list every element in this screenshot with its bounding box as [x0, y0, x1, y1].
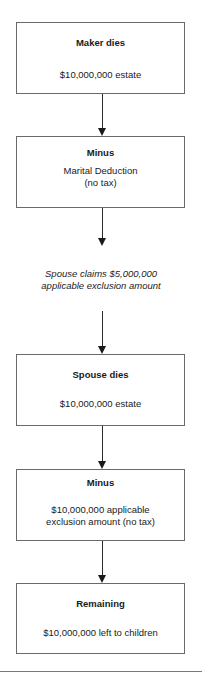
step-body: $10,000,000 estate [17, 398, 184, 410]
step-body: $10,000,000 estate [17, 69, 184, 81]
step-body-line: $10,000,000 left to children [17, 627, 184, 639]
arrow-down-icon [98, 128, 106, 136]
step-body-line: (no tax) [17, 177, 184, 189]
step-body-line: exclusion amount (no tax) [17, 516, 184, 528]
arrow-down-icon [98, 461, 106, 469]
connector-line [102, 426, 103, 461]
note-line: applicable exclusion amount [0, 280, 202, 292]
step-body-line: $10,000,000 estate [17, 398, 184, 410]
step-maker-dies: Maker dies $10,000,000 estate [16, 22, 185, 94]
note-line: Spouse claims $5,000,000 [0, 268, 202, 280]
bottom-divider [0, 671, 202, 672]
annotation-note: Spouse claims $5,000,000 applicable excl… [0, 268, 202, 292]
step-title: Spouse dies [17, 369, 184, 381]
step-marital-deduction: Minus Marital Deduction (no tax) [16, 136, 185, 208]
step-body-line: Marital Deduction [17, 165, 184, 177]
step-body: Marital Deduction (no tax) [17, 165, 184, 189]
step-spouse-dies: Spouse dies $10,000,000 estate [16, 354, 185, 426]
connector-line [102, 208, 103, 238]
step-body: $10,000,000 applicable exclusion amount … [17, 504, 184, 528]
step-applicable-exclusion: Minus $10,000,000 applicable exclusion a… [16, 469, 185, 541]
connector-line [102, 311, 103, 346]
step-title: Maker dies [17, 37, 184, 49]
arrow-down-icon [98, 238, 106, 246]
step-title: Minus [17, 477, 184, 489]
arrow-down-icon [98, 575, 106, 583]
step-body: $10,000,000 left to children [17, 627, 184, 639]
step-body-line: $10,000,000 estate [17, 69, 184, 81]
step-title: Minus [17, 147, 184, 159]
step-title: Remaining [17, 598, 184, 610]
connector-line [102, 94, 103, 128]
connector-line [102, 541, 103, 575]
step-body-line: $10,000,000 applicable [17, 504, 184, 516]
step-remaining: Remaining $10,000,000 left to children [16, 583, 185, 654]
arrow-down-icon [98, 346, 106, 354]
